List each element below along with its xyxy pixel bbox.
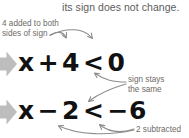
- equation-two-relation: <: [80, 96, 107, 125]
- equation-two-operator: −: [35, 96, 62, 125]
- right-arrow-bullet-shape: [0, 99, 17, 125]
- equation-two: x−2<−6: [18, 96, 147, 125]
- right-arrow-bullet-shape: [0, 51, 17, 77]
- equation-two-operand: 2: [62, 96, 80, 125]
- right-arrow-bullet-icon: [0, 51, 17, 77]
- header-text: its sign does not change.: [62, 1, 179, 13]
- annotation-added-to-both-sides: 4 added to both sides of sign: [2, 19, 59, 38]
- equation-one-operator: +: [35, 48, 62, 77]
- equation-two-variable: x: [18, 96, 35, 125]
- inequality-diagram: its sign does not change. 4 added to bot…: [0, 0, 189, 138]
- equation-one-operand: 4: [62, 48, 80, 77]
- annotation-two-subtracted: 2 subtracted: [136, 125, 181, 135]
- equation-one: x+4<0: [18, 48, 125, 77]
- arrow-subtracted-to-two: [59, 126, 134, 134]
- arrow-subtracted-to-six: [100, 125, 134, 132]
- equation-one-variable: x: [18, 48, 35, 77]
- annotation-sign-stays-the-same: sign stays the same: [128, 75, 164, 94]
- equation-one-right-side: 0: [107, 48, 125, 77]
- right-arrow-bullet-icon-2: [0, 99, 17, 125]
- equation-one-relation: <: [80, 48, 107, 77]
- equation-two-right-side: −6: [107, 96, 146, 125]
